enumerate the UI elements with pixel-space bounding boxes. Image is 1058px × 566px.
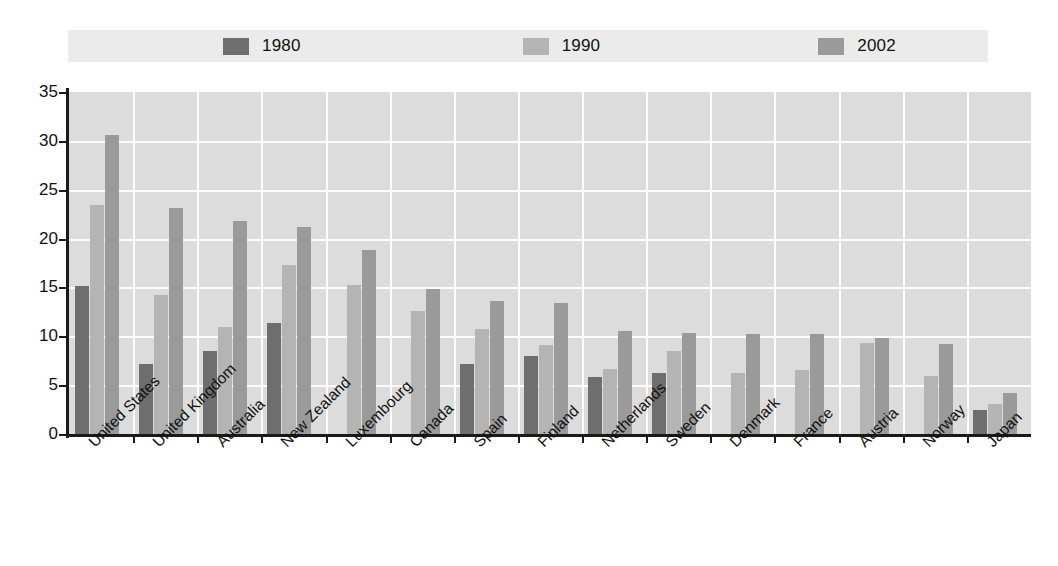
bar-2002 bbox=[297, 227, 311, 434]
gridline-vertical bbox=[133, 92, 135, 434]
bar-1980 bbox=[973, 410, 987, 434]
y-tick-label: 35 bbox=[39, 82, 58, 102]
legend-swatch-2002 bbox=[818, 38, 844, 55]
bar-group bbox=[267, 92, 311, 434]
y-tick-mark bbox=[59, 141, 67, 143]
bar-1990 bbox=[411, 311, 425, 434]
bar-2002 bbox=[169, 208, 183, 434]
bar-group bbox=[524, 92, 568, 434]
bar-2002 bbox=[105, 135, 119, 434]
legend-label-1990: 1990 bbox=[562, 36, 601, 56]
legend-swatch-1980 bbox=[223, 38, 249, 55]
gridline-vertical bbox=[454, 92, 456, 434]
gridline-vertical bbox=[646, 92, 648, 434]
y-tick-label: 15 bbox=[39, 277, 58, 297]
gridline-vertical bbox=[197, 92, 199, 434]
bar-group bbox=[845, 92, 889, 434]
y-tick-mark bbox=[59, 190, 67, 192]
bar-group bbox=[75, 92, 119, 434]
bar-group bbox=[716, 92, 760, 434]
y-tick-mark bbox=[59, 287, 67, 289]
bar-chart: 1980 1990 2002 05101520253035 United Sta… bbox=[0, 0, 1058, 566]
bar-group bbox=[588, 92, 632, 434]
y-tick-label: 20 bbox=[39, 229, 58, 249]
bar-1980 bbox=[524, 356, 538, 434]
y-tick-mark bbox=[59, 434, 67, 436]
gridline-vertical bbox=[710, 92, 712, 434]
bar-group bbox=[909, 92, 953, 434]
bar-1980 bbox=[460, 364, 474, 434]
gridline-vertical bbox=[903, 92, 905, 434]
plot-wrapper: 05101520253035 bbox=[22, 84, 1034, 444]
bar-group bbox=[780, 92, 824, 434]
bar-2002 bbox=[233, 221, 247, 434]
legend-label-1980: 1980 bbox=[262, 36, 301, 56]
y-tick-mark bbox=[59, 239, 67, 241]
y-tick-label: 30 bbox=[39, 131, 58, 151]
gridline-vertical bbox=[967, 92, 969, 434]
bar-1990 bbox=[475, 329, 489, 434]
y-tick-label: 10 bbox=[39, 326, 58, 346]
y-tick-label: 25 bbox=[39, 180, 58, 200]
bar-group bbox=[460, 92, 504, 434]
bar-group bbox=[973, 92, 1017, 434]
bar-1980 bbox=[588, 377, 602, 434]
chart-legend: 1980 1990 2002 bbox=[68, 30, 988, 62]
y-tick-mark bbox=[59, 92, 67, 94]
legend-item-2002: 2002 bbox=[818, 36, 896, 56]
legend-item-1980: 1980 bbox=[223, 36, 301, 56]
gridline-vertical bbox=[261, 92, 263, 434]
legend-item-1990: 1990 bbox=[523, 36, 601, 56]
legend-label-2002: 2002 bbox=[857, 36, 896, 56]
bar-1990 bbox=[282, 265, 296, 434]
y-tick-label: 5 bbox=[49, 375, 58, 395]
bar-1980 bbox=[75, 286, 89, 434]
y-tick-mark bbox=[59, 385, 67, 387]
legend-swatch-1990 bbox=[523, 38, 549, 55]
bar-1990 bbox=[347, 285, 361, 435]
gridline-vertical bbox=[582, 92, 584, 434]
y-tick-mark bbox=[59, 336, 67, 338]
gridline-vertical bbox=[839, 92, 841, 434]
gridline-vertical bbox=[518, 92, 520, 434]
y-axis: 05101520253035 bbox=[22, 84, 58, 434]
bar-1990 bbox=[90, 205, 104, 434]
gridline-vertical bbox=[774, 92, 776, 434]
gridline-vertical bbox=[326, 92, 328, 434]
gridline-vertical bbox=[390, 92, 392, 434]
bar-1990 bbox=[154, 295, 168, 434]
x-axis-labels: United StatesUnited KingdomAustraliaNew … bbox=[22, 438, 1034, 566]
bar-1980 bbox=[267, 323, 281, 434]
